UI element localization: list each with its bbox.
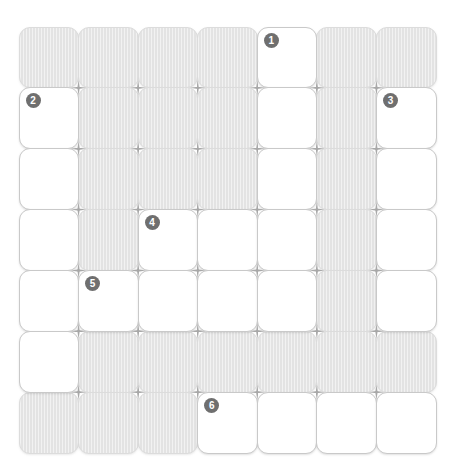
crossword-cell-blocked — [197, 27, 258, 89]
crossword-cell-open[interactable] — [197, 270, 258, 332]
crossword-cell-open[interactable]: 6 — [197, 392, 258, 454]
crossword-cell-blocked — [376, 331, 437, 393]
crossword-cell-blocked — [316, 27, 377, 89]
crossword-cell-blocked — [138, 392, 199, 454]
crossword-cell-blocked — [78, 331, 139, 393]
crossword-cell-open[interactable] — [138, 270, 199, 332]
crossword-cell-open[interactable] — [376, 148, 437, 210]
crossword-cell-blocked — [138, 331, 199, 393]
crossword-cell-blocked — [19, 392, 80, 454]
crossword-cell-blocked — [78, 209, 139, 271]
crossword-cell-open[interactable] — [19, 270, 80, 332]
crossword-cell-open[interactable]: 4 — [138, 209, 199, 271]
crossword-cell-blocked — [138, 87, 199, 149]
clue-number-badge: 3 — [383, 93, 398, 108]
crossword-cell-open[interactable] — [376, 270, 437, 332]
crossword-cell-blocked — [316, 331, 377, 393]
crossword-cell-blocked — [19, 27, 80, 89]
clue-number-badge: 2 — [26, 93, 41, 108]
crossword-cell-open[interactable]: 5 — [78, 270, 139, 332]
crossword-cell-blocked — [78, 392, 139, 454]
crossword-cell-open[interactable] — [19, 209, 80, 271]
clue-number-badge: 5 — [85, 276, 100, 291]
crossword-cell-blocked — [316, 148, 377, 210]
crossword-cell-open[interactable] — [19, 331, 80, 393]
crossword-cell-blocked — [316, 270, 377, 332]
crossword-cell-blocked — [197, 148, 258, 210]
crossword-cell-blocked — [257, 331, 318, 393]
crossword-cell-open[interactable] — [257, 270, 318, 332]
crossword-cell-open[interactable] — [257, 209, 318, 271]
crossword-cell-open[interactable]: 2 — [19, 87, 80, 149]
crossword-puzzle: 123456 — [0, 0, 456, 475]
crossword-grid: 123456 — [19, 27, 436, 453]
clue-number-badge: 1 — [264, 33, 279, 48]
clue-number-badge: 6 — [204, 398, 219, 413]
crossword-cell-open[interactable] — [257, 87, 318, 149]
crossword-cell-blocked — [376, 27, 437, 89]
crossword-cell-open[interactable] — [257, 148, 318, 210]
crossword-cell-blocked — [78, 87, 139, 149]
crossword-cell-open[interactable] — [376, 392, 437, 454]
crossword-cell-blocked — [78, 148, 139, 210]
crossword-cell-open[interactable] — [197, 209, 258, 271]
crossword-cell-blocked — [197, 87, 258, 149]
crossword-cell-open[interactable]: 3 — [376, 87, 437, 149]
crossword-cell-blocked — [138, 27, 199, 89]
crossword-cell-blocked — [316, 209, 377, 271]
crossword-cell-open[interactable]: 1 — [257, 27, 318, 89]
crossword-cell-blocked — [197, 331, 258, 393]
crossword-cell-blocked — [316, 87, 377, 149]
crossword-cell-open[interactable] — [316, 392, 377, 454]
crossword-cell-open[interactable] — [19, 148, 80, 210]
crossword-cell-open[interactable] — [376, 209, 437, 271]
crossword-cell-open[interactable] — [257, 392, 318, 454]
clue-number-badge: 4 — [145, 215, 160, 230]
crossword-cell-blocked — [138, 148, 199, 210]
crossword-cell-blocked — [78, 27, 139, 89]
